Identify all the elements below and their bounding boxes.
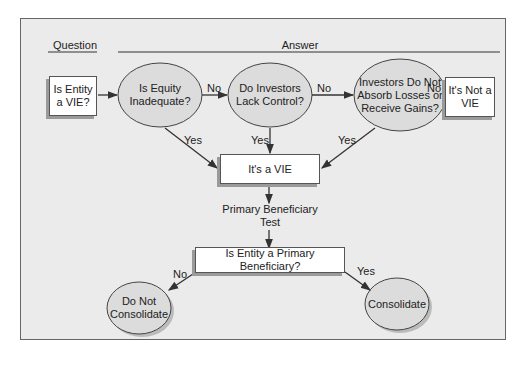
node-lack-control: Do Investors Lack Control? [234, 70, 306, 120]
edge-q2-no: No [316, 82, 332, 95]
node-pb-question: Is Entity a Primary Beneficiary? [195, 247, 345, 273]
node-is-entity-vie: Is Entity a VIE? [49, 76, 97, 116]
pb-test-label: Primary Beneficiary Test [220, 203, 320, 229]
edge-q1-no: No [206, 82, 222, 95]
question-header: Question [50, 39, 100, 52]
edge-pb-yes: Yes [355, 265, 377, 278]
node-equity-inadequate: Is Equity Inadequate? [124, 70, 196, 120]
edge-q1-yes: Yes [182, 134, 204, 147]
connectors [0, 0, 530, 370]
node-is-vie: It's a VIE [220, 154, 320, 184]
node-absorb-losses: Investors Do Not Absorb Losses or Receiv… [356, 62, 444, 128]
edge-q3-no: No [426, 82, 442, 95]
edge-q3-yes: Yes [336, 134, 358, 147]
edge-pb-no: No [172, 268, 188, 281]
node-not-vie: It's Not a VIE [445, 77, 495, 117]
node-consolidate: Consolidate [365, 278, 429, 330]
node-do-not-consolidate: Do Not Consolidate [107, 282, 171, 334]
answer-header: Answer [270, 39, 330, 52]
edge-q2-yes: Yes [249, 134, 271, 147]
